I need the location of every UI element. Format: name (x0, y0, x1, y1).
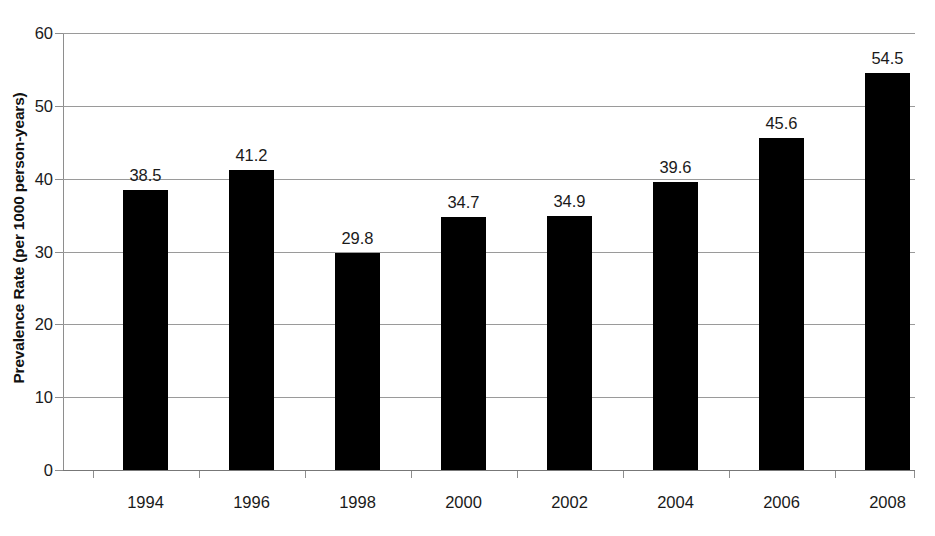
x-tick-label: 2008 (838, 494, 935, 511)
y-tick-mark (55, 179, 63, 180)
bar (123, 190, 168, 470)
bar-value-label: 39.6 (636, 159, 716, 176)
bar-value-label: 38.5 (106, 167, 186, 184)
x-tick-label: 2004 (626, 494, 726, 511)
x-tick-label: 2002 (520, 494, 620, 511)
gridline (63, 33, 915, 34)
y-tick-mark (55, 324, 63, 325)
bar-value-label: 34.9 (530, 193, 610, 210)
y-tick-label: 10 (7, 389, 53, 406)
x-tick-label: 1996 (202, 494, 302, 511)
gridline (63, 106, 915, 107)
y-tick-label: 40 (7, 171, 53, 188)
bar-value-label: 34.7 (424, 194, 504, 211)
x-tick-label: 2006 (732, 494, 832, 511)
x-tick-label: 1998 (308, 494, 408, 511)
y-tick-mark (55, 470, 63, 471)
bar (441, 217, 486, 470)
bar (865, 73, 910, 470)
y-tick-mark (55, 33, 63, 34)
x-tick-mark (93, 471, 94, 478)
y-axis-tick-labels: 0102030405060 (0, 0, 53, 536)
gridline (63, 470, 915, 471)
x-tick-label: 2000 (414, 494, 514, 511)
y-tick-label: 0 (7, 462, 53, 479)
x-tick-label: 1994 (96, 494, 196, 511)
bar-value-label: 41.2 (212, 147, 292, 164)
y-tick-mark (55, 106, 63, 107)
y-tick-mark (55, 397, 63, 398)
y-tick-label: 30 (7, 244, 53, 261)
bar-value-label: 45.6 (742, 115, 822, 132)
x-tick-mark (835, 471, 836, 478)
bar (653, 182, 698, 470)
x-tick-mark (305, 471, 306, 478)
bar (759, 138, 804, 470)
x-tick-mark (517, 471, 518, 478)
y-tick-label: 50 (7, 98, 53, 115)
bar-value-label: 29.8 (318, 230, 398, 247)
bar (335, 253, 380, 470)
x-tick-mark (729, 471, 730, 478)
x-axis-end-tick (914, 471, 915, 478)
plot-area: 38.541.229.834.734.939.645.654.5 (63, 33, 915, 470)
y-tick-label: 20 (7, 316, 53, 333)
bar (547, 216, 592, 470)
x-tick-mark (411, 471, 412, 478)
y-tick-mark (55, 252, 63, 253)
bar-chart: Prevalence Rate (per 1000 person-years) … (0, 0, 935, 536)
bar-value-label: 54.5 (848, 50, 928, 67)
x-tick-mark (199, 471, 200, 478)
bar (229, 170, 274, 470)
y-tick-label: 60 (7, 25, 53, 42)
x-tick-mark (623, 471, 624, 478)
